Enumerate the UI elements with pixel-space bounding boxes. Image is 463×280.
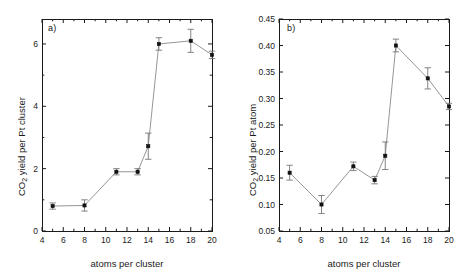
data-point-marker bbox=[394, 44, 397, 47]
y-axis-title-a: CO2 yield per Pt cluster bbox=[16, 97, 28, 196]
figure-root: a) atoms per cluster CO2 yield per Pt cl… bbox=[0, 0, 463, 280]
data-point-marker bbox=[51, 204, 54, 207]
data-point-marker bbox=[373, 179, 376, 182]
panel-a: a) atoms per cluster CO2 yield per Pt cl… bbox=[0, 0, 232, 280]
y-tick-label-b: 0.35 bbox=[235, 68, 275, 77]
y-axis-title-a-prefix: CO bbox=[16, 182, 27, 196]
y-tick-label-a: 4 bbox=[0, 102, 38, 111]
data-point-marker bbox=[210, 53, 213, 56]
y-axis-title-b-suffix: yield per Pt atom bbox=[247, 104, 258, 178]
panel-b: b) atoms per cluster CO2 yield per Pt at… bbox=[231, 0, 463, 280]
y-axis-title-b-prefix: CO bbox=[247, 182, 258, 196]
y-tick-label-b: 0.25 bbox=[235, 121, 275, 130]
y-axis-title-a-subscript: 2 bbox=[21, 178, 28, 182]
x-tick-label-b: 20 bbox=[437, 236, 461, 245]
data-point-marker bbox=[157, 42, 160, 45]
x-axis-title-b: atoms per cluster bbox=[279, 258, 449, 269]
panel-label-b: b) bbox=[287, 23, 295, 33]
data-point-marker bbox=[115, 170, 118, 173]
data-point-marker bbox=[352, 165, 355, 168]
panel-label-a: a) bbox=[48, 23, 56, 33]
data-point-marker bbox=[447, 105, 450, 108]
data-point-marker bbox=[147, 145, 150, 148]
data-point-marker bbox=[426, 77, 429, 80]
x-tick-label-a: 20 bbox=[200, 236, 224, 245]
data-point-marker bbox=[83, 204, 86, 207]
y-tick-label-b: 0.15 bbox=[235, 174, 275, 183]
y-tick-label-b: 0.40 bbox=[235, 42, 275, 51]
x-axis-title-a: atoms per cluster bbox=[42, 258, 212, 269]
y-tick-label-a: 6 bbox=[0, 40, 38, 49]
y-tick-label-b: 0.45 bbox=[235, 15, 275, 24]
y-tick-label-b: 0.30 bbox=[235, 95, 275, 104]
y-tick-label-b: 0.20 bbox=[235, 148, 275, 157]
data-point-marker bbox=[384, 154, 387, 157]
y-tick-label-b: 0.05 bbox=[235, 227, 275, 236]
y-tick-label-b: 0.10 bbox=[235, 201, 275, 210]
y-tick-label-a: 0 bbox=[0, 227, 38, 236]
data-point-marker bbox=[189, 39, 192, 42]
data-point-marker bbox=[320, 203, 323, 206]
data-point-marker bbox=[288, 171, 291, 174]
data-point-marker bbox=[136, 170, 139, 173]
y-tick-label-a: 2 bbox=[0, 165, 38, 174]
